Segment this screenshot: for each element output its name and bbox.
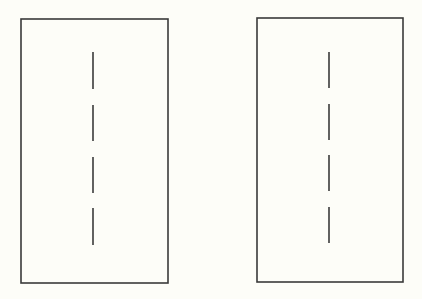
diagram-canvas <box>0 0 422 299</box>
left-rectangle <box>21 19 168 283</box>
right-rectangle <box>257 18 403 282</box>
right-panel <box>257 18 403 282</box>
left-panel <box>21 19 168 283</box>
